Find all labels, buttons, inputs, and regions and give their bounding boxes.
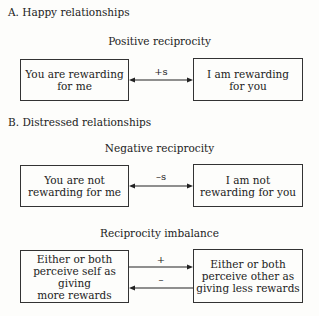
arrow-right-icon (129, 262, 193, 272)
box-text-line: rewarding for you (200, 186, 296, 198)
box-other-giving-less: Either or both perceive other as giving … (193, 249, 303, 303)
box-text-line: You are not (28, 174, 121, 186)
double-arrow-icon (129, 75, 193, 85)
box-text-line: for me (25, 80, 123, 92)
box-you-rewarding: You are rewarding for me (20, 59, 129, 101)
arrow-left-icon (129, 283, 193, 293)
box-text-line: giving less rewards (196, 282, 300, 294)
box-text-line: Either or both (196, 258, 300, 270)
box-text-line: perceive other as (196, 270, 300, 282)
box-text-line: Either or both (21, 253, 128, 265)
box-text-line: more rewards (21, 289, 128, 301)
reciprocity-imbalance-title: Reciprocity imbalance (0, 227, 319, 239)
double-arrow-icon (129, 181, 193, 191)
box-text-line: You are rewarding (25, 68, 123, 80)
negative-reciprocity-title: Negative reciprocity (0, 142, 319, 154)
box-self-giving-more: Either or both perceive self as giving m… (20, 250, 129, 303)
box-text-line: I am rewarding (207, 68, 289, 80)
box-text-line: perceive self as giving (21, 265, 128, 289)
box-i-rewarding: I am rewarding for you (193, 58, 303, 101)
box-you-not-rewarding: You are not rewarding for me (20, 165, 129, 207)
section-b-label: B. Distressed relationships (8, 116, 151, 128)
box-i-not-rewarding: I am not rewarding for you (193, 164, 303, 207)
section-a-label: A. Happy relationships (8, 6, 130, 18)
box-text-line: I am not (200, 174, 296, 186)
box-text-line: rewarding for me (28, 186, 121, 198)
positive-reciprocity-title: Positive reciprocity (0, 35, 319, 47)
box-text-line: for you (207, 80, 289, 92)
